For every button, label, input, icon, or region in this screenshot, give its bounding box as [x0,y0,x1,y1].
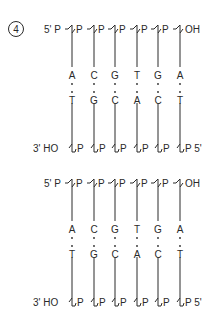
bottom-base: A [134,95,141,106]
bottom-phosphate-label: P [120,143,127,154]
hydrogen-bond-dot [93,91,95,93]
hydrogen-bond-dot [157,245,159,247]
hydrogen-bond-dot [114,237,116,239]
bottom-backbone-hook [72,303,76,306]
top-base: G [154,224,162,235]
bottom-backbone-hook [94,149,98,152]
hydrogen-bond-dot [157,91,159,93]
top-base: C [90,70,97,81]
hydrogen-bond-dot [71,237,73,239]
top-phosphate-label: P [98,178,105,189]
hydrogen-bond-dot [136,237,138,239]
top-base: A [69,224,76,235]
top-phosphate-label: P [162,178,169,189]
bottom-base: T [177,95,183,106]
bottom-phosphate-label: P [142,143,149,154]
bottom-backbone-hook [158,303,162,306]
top-phosphate-label: P [98,24,105,35]
hydrogen-bond-dot [157,237,159,239]
bottom-phosphate-label: P [99,297,106,308]
dna-duplex-diagram: 4 5' P3' HOPPATPPCGPPGCPPTAPPGCOHP 5'AT … [0,0,222,315]
top-base: T [134,70,140,81]
figure-label: 4 [9,22,24,37]
bottom-backbone-hook [72,149,76,152]
hydrogen-bond-dot [93,245,95,247]
hydrogen-bond-dot [93,83,95,85]
hydrogen-bond-dot [71,83,73,85]
top-base: T [134,224,140,235]
bottom-base: T [177,249,183,260]
bottom-backbone-hook [180,303,184,306]
hydrogen-bond-dot [179,245,181,247]
bottom-base: C [111,95,118,106]
hydrogen-bond-dot [179,237,181,239]
hydrogen-bond-dot [136,83,138,85]
top-phosphate-label: P [141,178,148,189]
bottom-strand-5prime-end: P 5' [185,297,202,308]
top-strand-5prime-end: 5' P [44,178,61,189]
top-base: A [69,70,76,81]
top-base: C [90,224,97,235]
bottom-phosphate-label: P [120,297,127,308]
bottom-base: G [90,95,98,106]
bottom-backbone-hook [158,149,162,152]
top-base: G [154,70,162,81]
duplex-panel-1: 5' P3' HOPPATPPCGPPGCPPTAPPGCOHP 5'AT [33,24,202,154]
bottom-strand-5prime-end: P 5' [185,143,202,154]
bottom-base: C [111,249,118,260]
top-strand-3prime-oh: OH [185,178,200,189]
figure-label-number: 4 [13,24,19,35]
duplex-panel-2: 5' P3' HOPPATPPCGPPGCPPTAPPGCOHP 5'AT [33,178,202,308]
bottom-phosphate-label: P [142,297,149,308]
bottom-phosphate-label: P [163,297,170,308]
hydrogen-bond-dot [93,237,95,239]
top-base: A [177,224,184,235]
hydrogen-bond-dot [179,91,181,93]
hydrogen-bond-dot [114,91,116,93]
top-strand-5prime-end: 5' P [44,24,61,35]
bottom-phosphate-label: P [99,143,106,154]
bottom-base: C [154,95,161,106]
bottom-base: G [90,249,98,260]
bottom-backbone-hook [137,149,141,152]
hydrogen-bond-dot [114,83,116,85]
top-phosphate-label: P [141,24,148,35]
bottom-backbone-hook [180,149,184,152]
hydrogen-bond-dot [114,245,116,247]
bottom-phosphate-label: P [77,143,84,154]
bottom-base: T [69,249,75,260]
bottom-backbone-hook [115,303,119,306]
top-base: G [111,224,119,235]
top-strand-3prime-oh: OH [185,24,200,35]
top-phosphate-label: P [162,24,169,35]
bottom-backbone-hook [115,149,119,152]
bottom-strand-3prime-end: 3' HO [33,297,58,308]
hydrogen-bond-dot [179,83,181,85]
bottom-backbone-hook [137,303,141,306]
top-base: G [111,70,119,81]
hydrogen-bond-dot [71,245,73,247]
bottom-backbone-hook [94,303,98,306]
bottom-strand-3prime-end: 3' HO [33,143,58,154]
hydrogen-bond-dot [71,91,73,93]
bottom-phosphate-label: P [163,143,170,154]
hydrogen-bond-dot [136,245,138,247]
bottom-phosphate-label: P [77,297,84,308]
bottom-base: C [154,249,161,260]
bottom-base: A [134,249,141,260]
top-phosphate-label: P [76,178,83,189]
top-phosphate-label: P [119,24,126,35]
top-phosphate-label: P [119,178,126,189]
top-phosphate-label: P [76,24,83,35]
bottom-base: T [69,95,75,106]
hydrogen-bond-dot [157,83,159,85]
hydrogen-bond-dot [136,91,138,93]
top-base: A [177,70,184,81]
